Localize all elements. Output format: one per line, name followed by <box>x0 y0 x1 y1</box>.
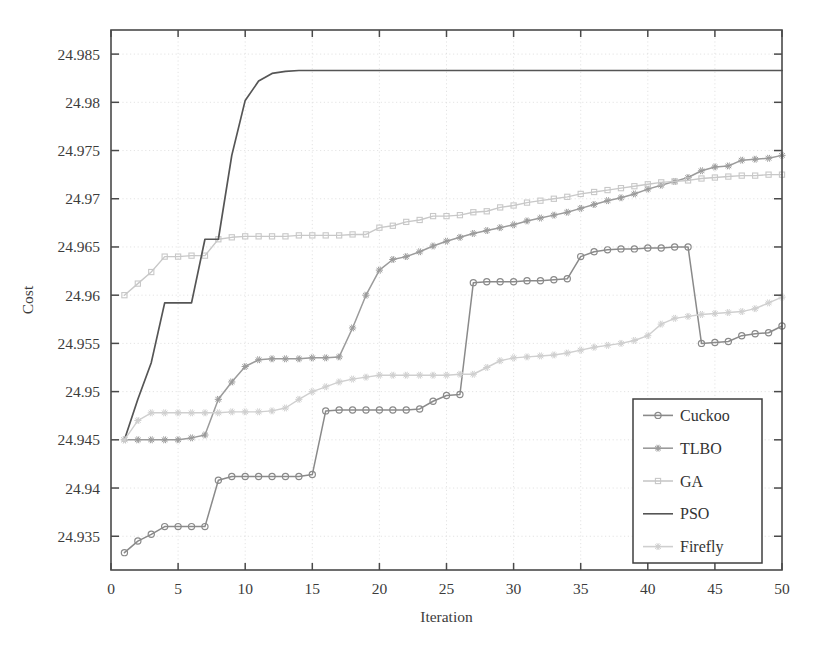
data-point-marker <box>617 340 624 347</box>
data-point-marker <box>309 354 316 361</box>
data-point-marker <box>564 209 571 216</box>
data-point-marker <box>188 409 195 416</box>
data-point-marker <box>564 350 571 357</box>
data-point-marker <box>631 337 638 344</box>
legend-label: PSO <box>680 505 709 522</box>
data-point-marker <box>416 248 423 255</box>
legend-label: GA <box>680 473 704 490</box>
series-line-tlbo <box>124 155 782 439</box>
data-point-marker <box>322 354 329 361</box>
data-point-marker <box>201 409 208 416</box>
data-point-marker <box>336 353 343 360</box>
x-tick-label: 35 <box>573 580 589 597</box>
x-tick-label: 45 <box>707 580 723 597</box>
series-line-ga <box>124 175 782 296</box>
data-point-marker <box>752 305 759 312</box>
data-point-marker <box>550 212 557 219</box>
data-point-marker <box>765 299 772 306</box>
data-point-marker <box>201 432 208 439</box>
data-point-marker <box>188 434 195 441</box>
y-tick-label: 24.955 <box>57 335 100 352</box>
y-tick-label: 24.97 <box>65 190 100 207</box>
data-point-marker <box>161 409 168 416</box>
data-point-marker <box>738 157 745 164</box>
y-axis-title: Cost <box>19 285 36 314</box>
data-point-marker <box>684 313 691 320</box>
data-point-marker <box>470 371 477 378</box>
x-tick-label: 30 <box>506 580 522 597</box>
data-point-marker <box>604 342 611 349</box>
x-tick-label: 20 <box>372 580 388 597</box>
data-point-marker <box>470 230 477 237</box>
data-point-marker <box>631 191 638 198</box>
data-point-marker <box>483 364 490 371</box>
data-point-marker <box>456 371 463 378</box>
data-point-marker <box>483 227 490 234</box>
data-point-marker <box>228 408 235 415</box>
data-point-marker <box>671 315 678 322</box>
data-point-marker <box>510 221 517 228</box>
series-line-pso <box>124 71 782 440</box>
data-point-marker <box>510 354 517 361</box>
data-point-marker <box>282 405 289 412</box>
data-point-marker <box>268 355 275 362</box>
x-tick-label: 40 <box>640 580 656 597</box>
data-point-marker <box>738 308 745 315</box>
data-point-marker <box>349 376 356 383</box>
data-point-marker <box>752 156 759 163</box>
data-point-marker <box>725 309 732 316</box>
data-point-marker <box>497 224 504 231</box>
y-tick-label: 24.985 <box>57 46 100 63</box>
data-point-marker <box>349 325 356 332</box>
data-point-marker <box>698 311 705 318</box>
y-tick-label: 24.98 <box>65 94 100 111</box>
series-ga <box>122 172 785 298</box>
data-point-marker <box>550 352 557 359</box>
data-point-marker <box>389 372 396 379</box>
data-point-marker <box>389 256 396 263</box>
data-point-marker <box>523 353 530 360</box>
data-point-marker <box>725 163 732 170</box>
data-point-marker <box>617 194 624 201</box>
cost-vs-iteration-chart: 0510152025303540455024.93524.9424.94524.… <box>0 0 834 652</box>
data-point-marker <box>658 321 665 328</box>
data-point-marker <box>604 197 611 204</box>
data-point-marker <box>523 218 530 225</box>
chart-figure: 0510152025303540455024.93524.9424.94524.… <box>0 0 834 652</box>
y-tick-label: 24.945 <box>57 431 100 448</box>
data-point-marker <box>268 407 275 414</box>
data-point-marker <box>577 347 584 354</box>
data-point-marker <box>215 396 222 403</box>
data-point-marker <box>537 215 544 222</box>
data-point-marker <box>295 355 302 362</box>
data-point-marker <box>282 355 289 362</box>
legend[interactable]: CuckooTLBOGAPSOFirefly <box>633 399 762 563</box>
data-point-marker <box>711 164 718 171</box>
data-point-marker <box>215 409 222 416</box>
data-point-marker <box>148 409 155 416</box>
y-tick-label: 24.95 <box>65 383 100 400</box>
data-point-marker <box>228 379 235 386</box>
data-point-marker <box>591 201 598 208</box>
data-point-marker <box>497 357 504 364</box>
data-point-marker <box>309 388 316 395</box>
data-point-marker <box>429 243 436 250</box>
x-tick-label: 10 <box>237 580 253 597</box>
legend-label: TLBO <box>680 440 722 457</box>
x-tick-label: 5 <box>174 580 182 597</box>
x-axis-title: Iteration <box>420 608 473 625</box>
legend-label: Firefly <box>680 538 724 556</box>
y-tick-label: 24.935 <box>57 528 100 545</box>
data-point-marker <box>134 417 141 424</box>
y-tick-label: 24.94 <box>65 480 100 497</box>
y-tick-label: 24.96 <box>65 287 100 304</box>
legend-label: Cuckoo <box>680 407 730 424</box>
y-tick-label: 24.975 <box>57 142 100 159</box>
data-point-marker <box>134 436 141 443</box>
data-point-marker <box>765 155 772 162</box>
data-point-marker <box>403 372 410 379</box>
data-point-marker <box>161 436 168 443</box>
data-point-marker <box>456 234 463 241</box>
data-point-marker <box>148 436 155 443</box>
data-point-marker <box>416 372 423 379</box>
